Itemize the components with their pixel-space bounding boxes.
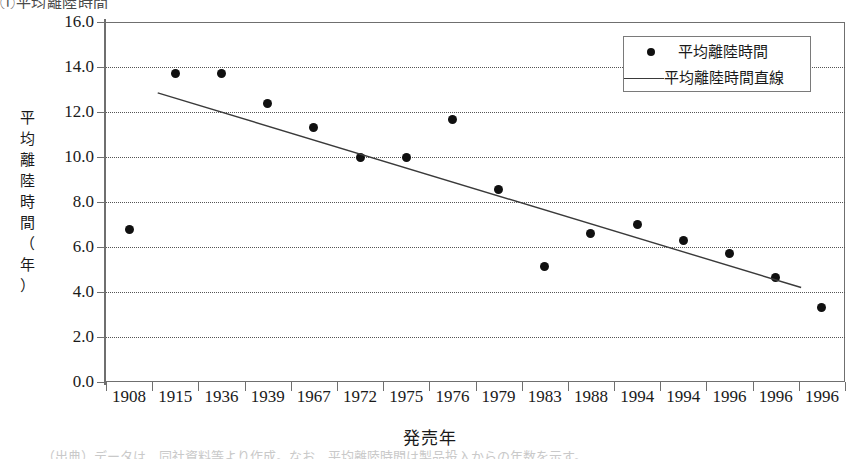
y-axis-title-char: （ bbox=[16, 234, 38, 255]
y-axis-title-char: 年 bbox=[16, 255, 38, 276]
legend-label-scatter: 平均離陸時間 bbox=[678, 44, 768, 60]
gridline bbox=[106, 247, 845, 248]
y-tick-mark bbox=[97, 382, 106, 383]
y-tick-mark bbox=[97, 202, 106, 203]
chart-caption-clipped: （出典）データは、同社資料等より作成。なお、平均離陸時間は製品投入からの年数を示… bbox=[42, 444, 742, 459]
y-tick-mark bbox=[97, 247, 106, 248]
y-tick-label: 6.0 bbox=[34, 238, 94, 255]
data-point bbox=[171, 69, 180, 78]
data-point bbox=[633, 220, 642, 229]
y-tick-label: 10.0 bbox=[34, 148, 94, 165]
y-tick-mark bbox=[97, 157, 106, 158]
y-axis-title-char: 時 bbox=[16, 192, 38, 213]
gridline bbox=[106, 292, 845, 293]
y-tick-mark bbox=[97, 67, 106, 68]
y-axis-title: 平均離陸時間（年） bbox=[16, 108, 38, 297]
y-tick-label: 12.0 bbox=[34, 103, 94, 120]
line-marker-icon bbox=[624, 78, 664, 79]
data-point bbox=[402, 153, 411, 162]
data-point bbox=[356, 153, 365, 162]
y-tick-label: 0.0 bbox=[34, 373, 94, 390]
y-axis-title-char: 陸 bbox=[16, 171, 38, 192]
gridline bbox=[106, 337, 845, 338]
y-tick-label: 8.0 bbox=[34, 193, 94, 210]
y-tick-label: 16.0 bbox=[34, 13, 94, 30]
y-tick-mark bbox=[97, 337, 106, 338]
y-axis-title-char: 離 bbox=[16, 150, 38, 171]
gridline bbox=[106, 112, 845, 113]
data-point bbox=[263, 99, 272, 108]
gridline bbox=[106, 157, 845, 158]
y-tick-label: 14.0 bbox=[34, 58, 94, 75]
y-tick-mark bbox=[97, 112, 106, 113]
data-point bbox=[540, 262, 549, 271]
x-tick-label: 1996 bbox=[792, 387, 852, 407]
y-axis-title-char: 間 bbox=[16, 213, 38, 234]
chart-figure: ①平均離陸時間 0.02.04.06.08.010.012.014.016.0 … bbox=[0, 0, 860, 459]
y-axis-title-char: 均 bbox=[16, 129, 38, 150]
data-point bbox=[679, 236, 688, 245]
chart-title-clipped: ①平均離陸時間 bbox=[0, 0, 420, 9]
data-point bbox=[125, 225, 134, 234]
legend-label-trendline: 平均離陸時間直線 bbox=[664, 70, 784, 86]
legend-item-trendline: 平均離陸時間直線 bbox=[624, 65, 810, 91]
legend-item-scatter: 平均離陸時間 bbox=[624, 39, 810, 65]
dot-marker-icon bbox=[624, 48, 678, 56]
gridline bbox=[106, 202, 845, 203]
y-tick-mark bbox=[97, 22, 106, 23]
y-tick-mark bbox=[97, 292, 106, 293]
y-axis-title-char: 平 bbox=[16, 108, 38, 129]
y-tick-label: 4.0 bbox=[34, 283, 94, 300]
legend: 平均離陸時間 平均離陸時間直線 bbox=[623, 36, 811, 92]
y-axis-title-char: ） bbox=[16, 276, 38, 297]
y-tick-label: 2.0 bbox=[34, 328, 94, 345]
